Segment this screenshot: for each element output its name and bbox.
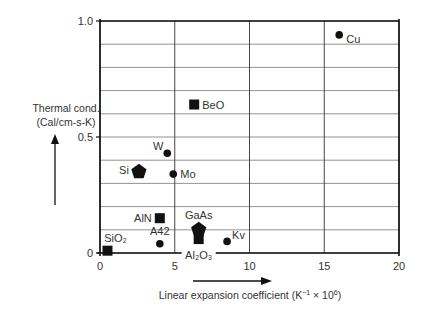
- right-arrow-icon: [261, 277, 272, 285]
- data-point-aln: AlN: [134, 212, 165, 224]
- point-label: GaAs: [185, 209, 213, 221]
- data-point-beo: BeO: [189, 99, 224, 111]
- data-point-cu: Cu: [335, 31, 360, 45]
- x-tick-label: 15: [318, 260, 330, 272]
- circle-marker-icon: [163, 149, 171, 157]
- point-label: SiO₂: [104, 232, 127, 244]
- x-tick-label: 5: [172, 260, 178, 272]
- data-point-alo: Al₂O₃: [182, 234, 216, 263]
- scatter-chart: 00.51.005101520 CuBeOWSiMoAlNGaAsAl₂O₃A4…: [0, 0, 423, 317]
- data-point-mo: Mo: [169, 168, 195, 180]
- data-point-a42: A42: [150, 225, 170, 248]
- x-tick-label: 0: [97, 260, 103, 272]
- point-label: Si: [119, 164, 129, 176]
- point-label: Mo: [180, 168, 195, 180]
- y-tick-label: 0.5: [78, 131, 93, 143]
- data-points: CuBeOWSiMoAlNGaAsAl₂O₃A42KvSiO₂: [102, 31, 360, 263]
- point-label: W: [153, 140, 164, 152]
- point-label: Cu: [346, 33, 360, 45]
- x-tick-label: 10: [243, 260, 255, 272]
- point-label: Kv: [232, 229, 245, 241]
- point-label: AlN: [134, 212, 152, 224]
- y-axis-title-line1: Thermal cond.: [32, 102, 99, 114]
- x-axis-title: Linear expansion coefficient (K−1 × 106): [159, 277, 341, 301]
- data-point-gaas: GaAs: [185, 209, 213, 237]
- data-point-sio: SiO₂: [102, 232, 126, 256]
- square-marker-icon: [189, 100, 199, 110]
- y-axis-title-line2: (Cal/cm-s-K): [37, 116, 96, 128]
- point-label: A42: [150, 225, 170, 237]
- y-tick-label: 1.0: [78, 15, 93, 27]
- square-marker-icon: [194, 234, 204, 244]
- square-marker-icon: [102, 246, 112, 256]
- point-label: BeO: [202, 99, 224, 111]
- circle-marker-icon: [156, 240, 164, 248]
- pentagon-marker-icon: [131, 164, 146, 179]
- y-axis-title: Thermal cond. (Cal/cm-s-K): [32, 102, 99, 205]
- y-tick-label: 0: [87, 247, 93, 259]
- circle-marker-icon: [335, 31, 343, 39]
- x-tick-label: 20: [393, 260, 405, 272]
- data-point-w: W: [153, 140, 171, 157]
- data-point-kv: Kv: [223, 229, 245, 245]
- data-point-si: Si: [119, 164, 146, 179]
- circle-marker-icon: [169, 170, 177, 178]
- square-marker-icon: [155, 213, 165, 223]
- point-label: Al₂O₃: [185, 249, 212, 261]
- up-arrow-icon: [51, 134, 59, 144]
- circle-marker-icon: [223, 238, 231, 246]
- x-axis-title-text: Linear expansion coefficient (K−1 × 106): [159, 289, 341, 301]
